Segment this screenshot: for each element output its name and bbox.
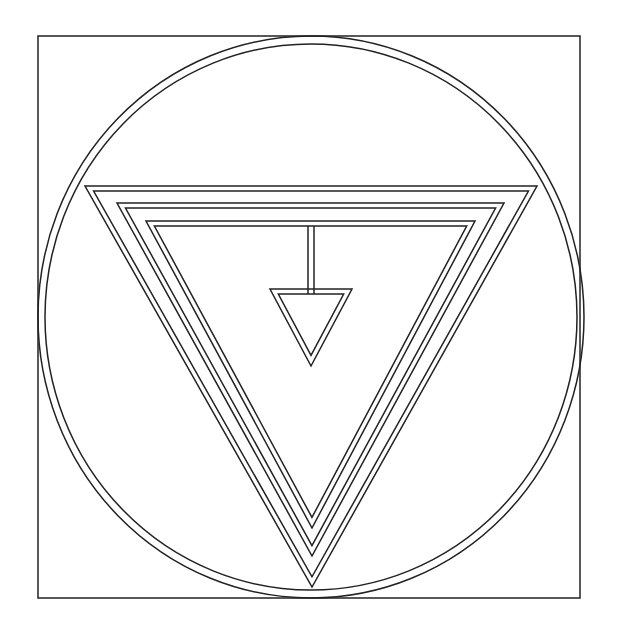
nested-triangles [85,186,537,587]
middle-triangle-inner-outline [125,208,495,546]
middle-triangle-outline [117,203,504,556]
pendant-arrow [270,226,352,366]
diagram-canvas [0,0,618,632]
inner-triangle-inner-outline [154,226,466,517]
outer-triangle-inner-outline [94,191,529,577]
symbol-diagram [0,0,618,632]
pendant-triangle-inner-outline [278,294,343,355]
